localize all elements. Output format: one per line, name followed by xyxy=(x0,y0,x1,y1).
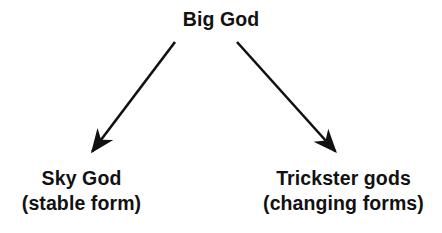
node-sky-god-line2: (stable form) xyxy=(0,191,163,216)
node-trickster-gods-line1: Trickster gods xyxy=(250,166,437,191)
node-sky-god: Sky God (stable form) xyxy=(0,166,163,216)
arrow-down-right-icon xyxy=(237,42,336,152)
node-trickster-gods: Trickster gods (changing forms) xyxy=(250,166,437,216)
diagram-canvas: Big God Sky God (stable form) Trickster … xyxy=(0,0,442,233)
node-sky-god-line1: Sky God xyxy=(0,166,163,191)
arrow-down-left-icon xyxy=(92,42,175,152)
node-trickster-gods-line2: (changing forms) xyxy=(250,191,437,216)
